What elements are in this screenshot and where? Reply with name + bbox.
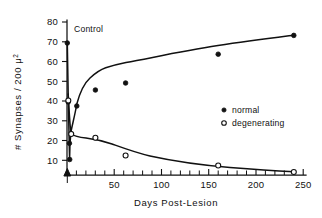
y-tick-label-30: 30 [47, 115, 58, 126]
data-point-normal [216, 52, 221, 57]
data-point-normal [292, 33, 297, 38]
data-point-degenerating [216, 163, 221, 168]
y-tick-label-10: 10 [47, 155, 58, 166]
chart-legend: normal degenerating [222, 105, 285, 128]
data-point-normal [75, 104, 80, 109]
y-tick-label-70: 70 [47, 36, 58, 47]
data-point-normal [123, 81, 128, 86]
data-point-normal [67, 157, 72, 162]
y-axis-title-text: # Synapses / 200 μ [12, 58, 23, 150]
data-point-normal [67, 141, 72, 146]
data-point-degenerating [291, 170, 296, 175]
y-tick-label-80: 80 [47, 16, 58, 27]
data-point-degenerating [123, 153, 128, 158]
data-point-normal [93, 88, 98, 93]
y-tick-label-40: 40 [47, 95, 58, 106]
y-tick-label-60: 60 [47, 56, 58, 67]
x-tick-label-150: 150 [200, 179, 216, 190]
y-tick-label-20: 20 [47, 135, 58, 146]
y-axis-title-superscript: 2 [12, 54, 19, 58]
y-axis-title: # Synapses / 200 μ2 [12, 54, 24, 150]
x-axis-tick-labels: 50 100 150 200 250 [109, 179, 312, 190]
x-axis-minor-ticks [76, 171, 293, 176]
x-tick-label-100: 100 [153, 179, 169, 190]
legend-label-normal: normal [232, 105, 259, 115]
synapse-recovery-chart: 10 20 30 40 50 60 70 80 # Synapses / 200… [0, 0, 322, 218]
degenerating-data-points [66, 98, 296, 175]
y-tick-label-50: 50 [47, 76, 58, 87]
data-point-degenerating [69, 132, 74, 137]
degenerating-curve [68, 94, 294, 172]
legend-marker-normal [222, 108, 226, 112]
legend-marker-degenerating [222, 121, 227, 126]
data-point-normal [65, 41, 70, 46]
x-tick-label-50: 50 [109, 179, 120, 190]
x-tick-label-200: 200 [248, 179, 264, 190]
lesion-arrow-icon [64, 169, 71, 184]
y-axis-tick-labels: 10 20 30 40 50 60 70 80 [47, 16, 58, 165]
x-tick-label-250: 250 [295, 179, 311, 190]
control-annotation-label: Control [74, 24, 103, 34]
figure-container: 10 20 30 40 50 60 70 80 # Synapses / 200… [0, 0, 322, 218]
x-axis-title: Days Post-Lesion [134, 197, 218, 208]
data-point-degenerating [93, 135, 98, 140]
data-point-degenerating [66, 98, 71, 103]
legend-label-degenerating: degenerating [232, 118, 285, 128]
